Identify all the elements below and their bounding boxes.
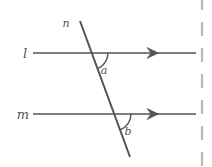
- label-line-m: m: [17, 107, 29, 122]
- label-line-l: l: [23, 46, 27, 61]
- line-n-transversal: [80, 21, 130, 157]
- label-angle-b: b: [124, 125, 131, 138]
- label-line-n: n: [62, 17, 69, 30]
- geometry-diagram-canvas: l m n a b: [0, 0, 212, 167]
- label-angle-a: a: [101, 64, 108, 77]
- geometry-figure: l m n a b: [0, 0, 212, 167]
